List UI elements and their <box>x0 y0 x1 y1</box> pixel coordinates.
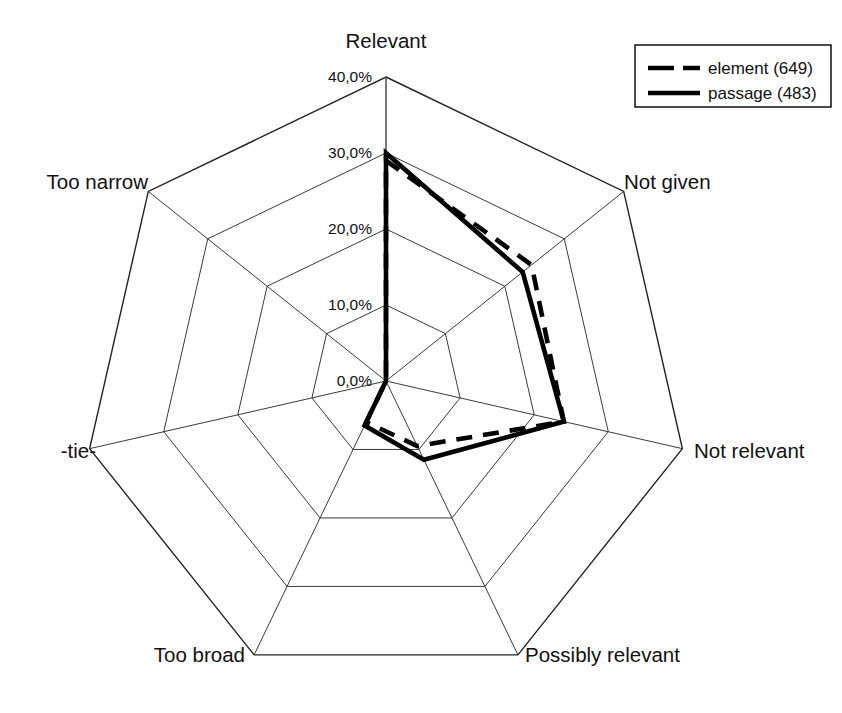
tick-label-0: 0,0% <box>337 372 373 389</box>
tick-label-30: 30,0% <box>328 144 372 161</box>
radar-chart-container: 0,0% 10,0% 20,0% 30,0% 40,0% Relevant No… <box>0 0 842 713</box>
axis-label-too-narrow: Too narrow <box>47 170 149 193</box>
axis-spoke-2 <box>386 381 682 449</box>
axis-spoke-1 <box>386 191 624 381</box>
axis-label-relevant: Relevant <box>346 29 427 52</box>
axis-label-tie: -tie- <box>61 439 96 462</box>
radar-chart-svg: 0,0% 10,0% 20,0% 30,0% 40,0% Relevant No… <box>0 0 842 713</box>
axis-label-not-given: Not given <box>624 170 711 193</box>
radar-axis-labels: Relevant Not given Not relevant Possibly… <box>47 29 805 666</box>
series-element <box>366 161 564 446</box>
tick-label-10: 10,0% <box>328 296 372 313</box>
legend-label-element: element (649) <box>708 59 813 78</box>
radar-tick-labels: 0,0% 10,0% 20,0% 30,0% 40,0% <box>328 68 372 389</box>
tick-label-20: 20,0% <box>328 220 372 237</box>
axis-label-possibly-relevant: Possibly relevant <box>525 643 680 666</box>
axis-label-too-broad: Too broad <box>154 643 245 666</box>
tick-label-40: 40,0% <box>328 68 372 85</box>
chart-legend[interactable]: element (649) passage (483) <box>635 45 831 107</box>
axis-label-not-relevant: Not relevant <box>694 439 805 462</box>
axis-spoke-5 <box>90 381 386 449</box>
legend-label-passage: passage (483) <box>708 84 817 103</box>
